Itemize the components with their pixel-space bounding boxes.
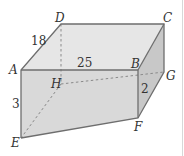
vertex-label-h: H <box>50 77 62 91</box>
vertex-label-b: B <box>130 57 140 71</box>
vertex-label-g: G <box>166 69 176 83</box>
vertex-label-f: F <box>133 120 143 134</box>
vertex-label-c: C <box>163 11 172 25</box>
measure-ad: 18 <box>31 34 46 48</box>
measure-bf: 2 <box>141 82 149 96</box>
vertex-label-a: A <box>8 63 18 77</box>
measure-ab: 25 <box>77 56 92 70</box>
vertex-label-d: D <box>54 11 65 25</box>
box-diagram: D C A B G H E F 18 25 3 2 <box>0 0 184 156</box>
measure-ae: 3 <box>12 97 20 111</box>
vertex-label-e: E <box>10 136 20 150</box>
